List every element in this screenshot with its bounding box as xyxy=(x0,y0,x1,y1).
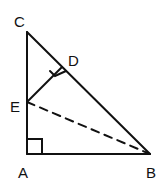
label-E: E xyxy=(10,98,20,115)
segment-ED xyxy=(27,67,62,102)
label-B: B xyxy=(146,164,156,181)
label-A: A xyxy=(18,164,28,181)
right-angle-mark-A xyxy=(27,139,42,154)
triangle-diagram: C D E A B xyxy=(0,0,162,182)
segment-CB xyxy=(27,32,150,154)
label-C: C xyxy=(14,13,25,30)
segment-EB-dashed xyxy=(27,102,150,154)
label-D: D xyxy=(68,52,79,69)
